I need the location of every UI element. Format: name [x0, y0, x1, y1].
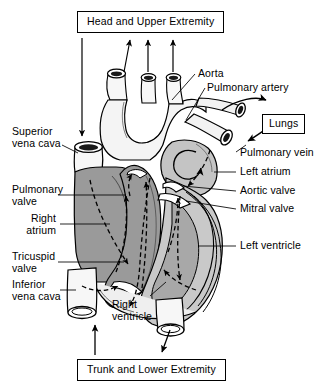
label-right-atrium-line1: Right [0, 213, 56, 225]
label-aorta: Aorta [198, 68, 224, 80]
destination-box-trunk: Trunk and Lower Extremity [77, 359, 226, 381]
label-right-atrium-line2: atrium [0, 225, 56, 237]
label-mitral-valve: Mitral valve [240, 203, 294, 215]
label-aortic-valve: Aortic valve [240, 185, 295, 197]
label-superior-vena-cava-line1: Superior [12, 126, 61, 138]
label-right-atrium: Right atrium [0, 213, 56, 236]
heart-diagram: Head and Upper Extremity Lungs Trunk and… [0, 0, 322, 384]
label-inferior-vena-cava: Inferior vena cava [12, 279, 61, 302]
label-left-ventricle: Left ventricle [240, 240, 301, 252]
label-pulmonary-vein: Pulmonary vein [240, 147, 314, 159]
label-pulmonary-artery: Pulmonary artery [207, 82, 289, 94]
label-left-atrium: Left atrium [240, 166, 291, 178]
label-tricuspid-valve-line1: Tricuspid [12, 251, 55, 263]
inferior-vena-cava [67, 268, 97, 319]
label-pulmonary-valve-line2: valve [12, 196, 63, 208]
label-right-ventricle: Right ventricle [112, 299, 152, 322]
label-tricuspid-valve: Tricuspid valve [12, 251, 55, 274]
label-right-ventricle-line1: Right [112, 299, 152, 311]
aortic-arch-branch-3 [166, 74, 183, 104]
destination-box-head: Head and Upper Extremity [77, 11, 224, 33]
aortic-arch-branch-2 [141, 74, 156, 103]
label-pulmonary-valve: Pulmonary valve [12, 184, 63, 207]
destination-box-lungs: Lungs [262, 114, 305, 134]
aortic-arch-branch-1 [107, 69, 127, 100]
label-superior-vena-cava-line2: vena cava [12, 138, 61, 150]
label-inferior-vena-cava-line1: Inferior [12, 279, 61, 291]
label-pulmonary-valve-line1: Pulmonary [12, 184, 63, 196]
label-tricuspid-valve-line2: valve [12, 263, 55, 275]
label-inferior-vena-cava-line2: vena cava [12, 291, 61, 303]
flow-arrow-branch-1 [124, 40, 130, 72]
label-right-ventricle-line2: ventricle [112, 311, 152, 323]
label-superior-vena-cava: Superior vena cava [12, 126, 61, 149]
